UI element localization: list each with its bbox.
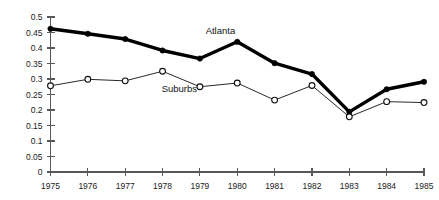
y-tick-label: 0 xyxy=(38,167,43,177)
data-point-atlanta-1979 xyxy=(197,56,202,61)
x-tick-label: 1981 xyxy=(265,181,284,191)
y-tick-labels: 00.050.10.150.20.250.30.350.40.450.5 xyxy=(26,12,43,177)
data-point-suburbs-1975 xyxy=(48,83,54,89)
data-point-suburbs-1985 xyxy=(421,100,427,106)
x-tick-label: 1976 xyxy=(78,181,97,191)
y-tick-label: 0.3 xyxy=(31,74,43,84)
data-point-suburbs-1980 xyxy=(234,80,240,86)
data-point-atlanta-1981 xyxy=(272,61,277,66)
series-label-suburbs: Suburbs xyxy=(162,83,198,94)
series-label-atlanta: Atlanta xyxy=(206,25,236,36)
data-point-suburbs-1977 xyxy=(122,78,128,84)
x-tick-label: 1982 xyxy=(302,181,321,191)
x-tick-label: 1977 xyxy=(116,181,135,191)
data-point-atlanta-1976 xyxy=(85,31,90,36)
y-tick-label: 0.4 xyxy=(31,43,43,53)
data-point-suburbs-1984 xyxy=(384,99,390,105)
x-axis: 1975197619771978197919801981198219831984… xyxy=(41,168,434,191)
x-tick-label: 1984 xyxy=(377,181,396,191)
y-tick-label: 0.45 xyxy=(26,28,43,38)
line-chart: 00.050.10.150.20.250.30.350.40.450.5 197… xyxy=(0,0,439,200)
data-point-suburbs-1981 xyxy=(272,97,278,103)
data-point-suburbs-1979 xyxy=(197,84,203,90)
y-tick-label: 0.5 xyxy=(31,12,43,22)
data-point-atlanta-1984 xyxy=(384,87,389,92)
data-point-atlanta-1978 xyxy=(160,48,165,53)
chart-plot-area: 00.050.10.150.20.250.30.350.40.450.5 197… xyxy=(0,0,439,200)
data-point-atlanta-1985 xyxy=(421,79,426,84)
series-line-suburbs xyxy=(51,71,425,117)
x-tick-label: 1985 xyxy=(415,181,434,191)
data-point-atlanta-1977 xyxy=(123,36,128,41)
y-tick-label: 0.25 xyxy=(26,90,43,100)
y-axis: 00.050.10.150.20.250.30.350.40.450.5 xyxy=(26,12,55,177)
data-point-suburbs-1983 xyxy=(346,114,352,120)
y-tick-label: 0.15 xyxy=(26,121,43,131)
data-point-suburbs-1982 xyxy=(309,83,315,89)
data-point-suburbs-1976 xyxy=(85,76,91,82)
data-point-atlanta-1980 xyxy=(235,39,240,44)
data-point-atlanta-1975 xyxy=(48,26,53,31)
x-tick-label: 1980 xyxy=(228,181,247,191)
data-series-layer xyxy=(48,26,427,120)
y-tick-label: 0.2 xyxy=(31,105,43,115)
y-tick-label: 0.35 xyxy=(26,59,43,69)
y-tick-label: 0.05 xyxy=(26,152,43,162)
x-tick-label: 1979 xyxy=(190,181,209,191)
x-tick-label: 1978 xyxy=(153,181,172,191)
y-tick-label: 0.1 xyxy=(31,136,43,146)
x-tick-labels: 1975197619771978197919801981198219831984… xyxy=(41,181,434,191)
data-point-atlanta-1982 xyxy=(309,71,314,76)
x-tick-label: 1975 xyxy=(41,181,60,191)
x-tick-label: 1983 xyxy=(340,181,359,191)
data-point-suburbs-1978 xyxy=(160,68,166,74)
